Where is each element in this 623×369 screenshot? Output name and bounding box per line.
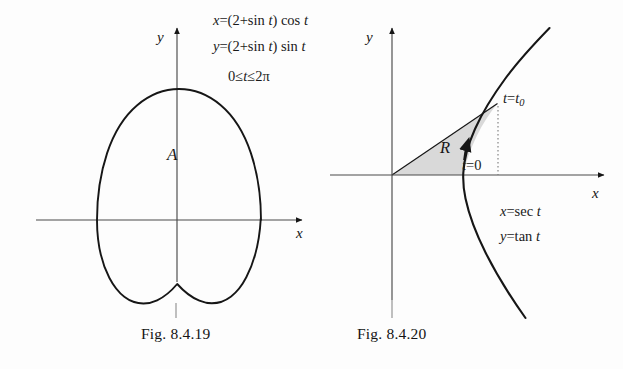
fig1-eq-x-tail: ) cos — [272, 12, 303, 28]
fig1-eq-x-t2: t — [304, 12, 308, 28]
fig1-equation-x: x=(2+sin t) cos t — [213, 12, 308, 29]
fig1-equation-y: y=(2+sin t) sin t — [213, 38, 305, 55]
fig1-range-suffix: ≤2π — [247, 68, 270, 84]
fig1-eq-y-body: =(2+sin — [219, 38, 268, 54]
figures-svg — [0, 0, 623, 369]
fig1-parameter-range: 0≤t≤2π — [228, 68, 270, 85]
figure-sheet: y x A x=(2+sin t) cos t y=(2+sin t) sin … — [0, 0, 623, 369]
fig2-y-axis-label: y — [366, 30, 373, 45]
fig2-eq-x-body: =sec — [506, 203, 536, 219]
fig2-tzero-value: =0 — [466, 157, 481, 173]
figure-caption-left: Fig. 8.4.19 — [141, 325, 210, 343]
fig2-region-label-R: R — [440, 140, 450, 157]
fig1-x-axis-label: x — [296, 226, 303, 241]
fig1-region-label-A: A — [167, 146, 177, 163]
fig2-equation-x: x=sec t — [500, 203, 541, 220]
fig2-x-axis-label: x — [592, 186, 599, 201]
fig2-eq-x-t: t — [537, 203, 541, 219]
fig2-equation-y: y=tan t — [500, 228, 540, 245]
fig1-eq-x-body: =(2+sin — [219, 12, 268, 28]
fig1-range-prefix: 0≤ — [228, 68, 243, 84]
figure-caption-right: Fig. 8.4.20 — [357, 325, 426, 343]
fig2-eq-y-body: =tan — [506, 228, 536, 244]
fig2-point-label-tzero: t=0 — [462, 157, 481, 174]
fig1-limacon-curve — [97, 89, 261, 304]
fig2-t0-subscript: 0 — [519, 97, 524, 108]
fig1-y-axis-label: y — [157, 30, 164, 45]
fig2-eq-y-t: t — [536, 228, 540, 244]
fig2-point-label-t0: t=t0 — [503, 90, 524, 108]
fig1-eq-y-t2: t — [301, 38, 305, 54]
fig1-eq-y-tail: ) sin — [272, 38, 301, 54]
fig2-t0-equals: = — [507, 90, 515, 106]
